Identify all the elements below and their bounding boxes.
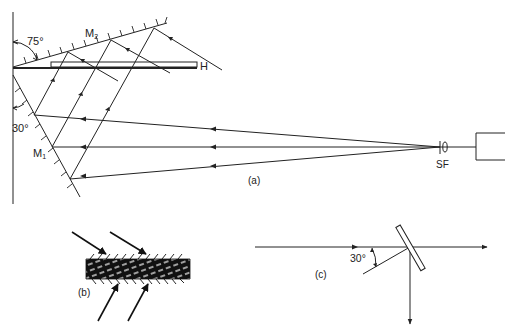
angle-label-c: 30° [350, 252, 366, 264]
hologram-plate-h [51, 62, 197, 67]
mirror-m2-label: M2 [85, 27, 98, 40]
spatial-filter-label: SF [436, 159, 449, 170]
panel-b-caption: (b) [78, 287, 90, 298]
mirror-m1-label: M1 [33, 147, 46, 160]
incident-beams [34, 115, 440, 179]
reference-beam-arrow-1 [98, 284, 118, 321]
reference-beam-arrow-2 [128, 284, 148, 321]
plate-h-label: H [200, 60, 208, 72]
object-beam-arrow-1 [72, 232, 106, 254]
reflected-beams-m1-to-m2 [34, 28, 154, 179]
angle-label-30: 30° [12, 122, 29, 134]
spatial-filter [440, 141, 476, 154]
angle-label-75: 75° [27, 35, 44, 47]
panel-b [72, 232, 190, 321]
fringe-pattern-emulsion [86, 259, 190, 279]
panel-c-caption: (c) [315, 269, 327, 280]
panel-c [255, 225, 487, 324]
normal-line [363, 247, 410, 274]
object-beam-arrow-2 [110, 232, 146, 254]
holography-setup-diagram: 75° 30° M2 M1 H SF (a) [0, 0, 514, 332]
laser-source [476, 133, 505, 160]
panel-a-caption: (a) [248, 175, 260, 186]
